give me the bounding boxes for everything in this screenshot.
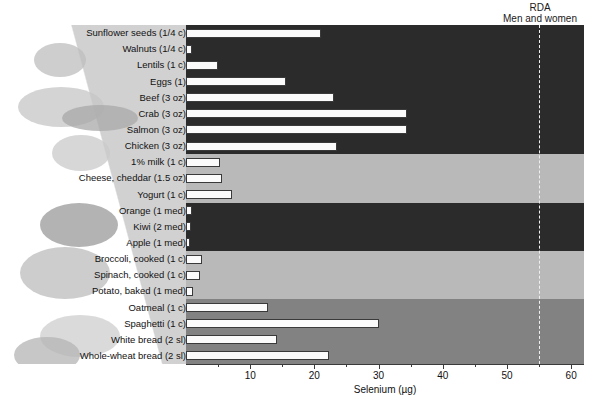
- x-tick-label: 40: [423, 370, 463, 381]
- x-tick: [443, 364, 444, 369]
- category-label: Apple (1 med): [0, 238, 188, 248]
- category-label: Yogurt (1 c): [0, 190, 188, 200]
- x-tick-label: 10: [230, 370, 270, 381]
- x-tick: [314, 364, 315, 369]
- rda-label-line1: RDA: [470, 2, 600, 13]
- category-label: Crab (3 oz): [0, 109, 188, 119]
- category-label: Spaghetti (1 c): [0, 319, 188, 329]
- x-tick: [571, 364, 572, 369]
- category-label: Eggs (1): [0, 77, 188, 87]
- rda-label-line2: Men and women: [470, 13, 600, 24]
- x-minor-tick: [346, 364, 347, 367]
- x-tick: [507, 364, 508, 369]
- category-label: Sunflower seeds (1/4 c): [0, 28, 188, 38]
- category-label: White bread (2 sl): [0, 335, 188, 345]
- x-tick-label: 20: [294, 370, 334, 381]
- category-label: 1% milk (1 c): [0, 157, 188, 167]
- category-label: Chicken (3 oz): [0, 141, 188, 151]
- x-minor-tick: [411, 364, 412, 367]
- rda-annotation: RDA Men and women: [470, 2, 600, 24]
- category-label: Cheese, cheddar (1.5 oz): [0, 173, 188, 183]
- category-label: Spinach, cooked (1 c): [0, 270, 188, 280]
- x-tick-label: 60: [551, 370, 591, 381]
- x-tick: [379, 364, 380, 369]
- x-tick-label: 30: [359, 370, 399, 381]
- x-minor-tick: [282, 364, 283, 367]
- category-label: Salmon (3 oz): [0, 125, 188, 135]
- category-label: Oatmeal (1 c): [0, 303, 188, 313]
- selenium-bar-chart: RDA Men and women Sunflower seeds (1/4 c…: [0, 0, 600, 402]
- category-label: Whole-wheat bread (2 sl): [0, 351, 188, 361]
- category-label: Lentils (1 c): [0, 60, 188, 70]
- x-axis-line: [186, 364, 584, 365]
- category-labels: Sunflower seeds (1/4 c)Walnuts (1/4 c)Le…: [0, 25, 600, 364]
- category-label: Beef (3 oz): [0, 93, 188, 103]
- x-minor-tick: [218, 364, 219, 367]
- category-label: Broccoli, cooked (1 c): [0, 254, 188, 264]
- category-label: Orange (1 med): [0, 206, 188, 216]
- category-label: Potato, baked (1 med): [0, 286, 188, 296]
- category-label: Walnuts (1/4 c): [0, 44, 188, 54]
- x-minor-tick: [539, 364, 540, 367]
- x-axis-title: Selenium (µg): [186, 384, 584, 395]
- x-tick-label: 50: [487, 370, 527, 381]
- category-label: Kiwi (2 med): [0, 222, 188, 232]
- x-minor-tick: [475, 364, 476, 367]
- x-tick: [250, 364, 251, 369]
